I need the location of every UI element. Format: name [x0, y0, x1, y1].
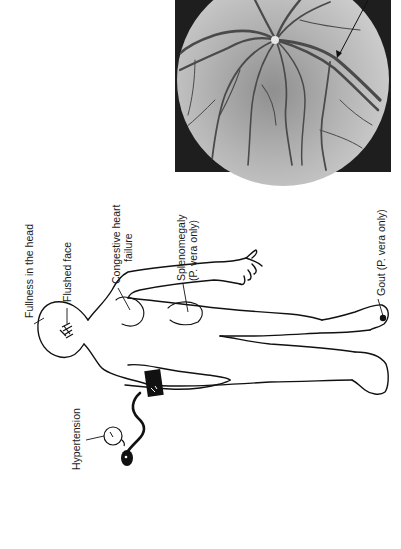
label-congestive-heart-2: failure: [122, 233, 134, 262]
heart-outline: [116, 297, 144, 326]
right-foot: [322, 305, 388, 330]
left-foot: [352, 352, 388, 394]
body-outline: [38, 250, 388, 394]
labels: Fullness in the head Flushed face Conges…: [23, 205, 387, 470]
label-flushed-face: Flushed face: [61, 242, 73, 302]
left-leg-inner: [220, 336, 355, 352]
fundus-photo: [175, 0, 391, 186]
diagram-stage: Fullness in the head Flushed face Conges…: [0, 0, 401, 549]
label-splenomegaly-2: (P. vera only): [187, 220, 199, 281]
torso-right-side: [128, 298, 322, 320]
bp-cuff: [144, 369, 163, 397]
bp-bulb-icon: [121, 450, 133, 466]
polycythemia-diagram: Fullness in the head Flushed face Conges…: [0, 0, 401, 549]
leader-heart: [118, 288, 130, 310]
right-leg-inner: [220, 330, 370, 336]
label-fullness-in-head: Fullness in the head: [23, 224, 35, 318]
leader-spleen: [183, 284, 188, 312]
right-hand: [240, 250, 262, 285]
flushed-face-mark: [60, 323, 73, 338]
left-leg-outer: [150, 380, 352, 386]
label-hypertension: Hypertension: [70, 408, 82, 470]
leader-hypertension: [86, 436, 104, 440]
label-splenomegaly-1: Splenomegaly: [175, 214, 187, 281]
label-gout: Gout (P. vera only): [375, 209, 387, 296]
bp-tube: [126, 393, 144, 454]
optic-disc: [271, 36, 279, 44]
head-outline: [38, 302, 88, 358]
leader-gout: [378, 299, 383, 316]
left-arm-top: [128, 365, 230, 380]
bp-gauge-icon: [104, 427, 122, 445]
blood-pressure-cuff: [104, 369, 164, 466]
label-congestive-heart-1: Congestive heart: [110, 205, 122, 284]
